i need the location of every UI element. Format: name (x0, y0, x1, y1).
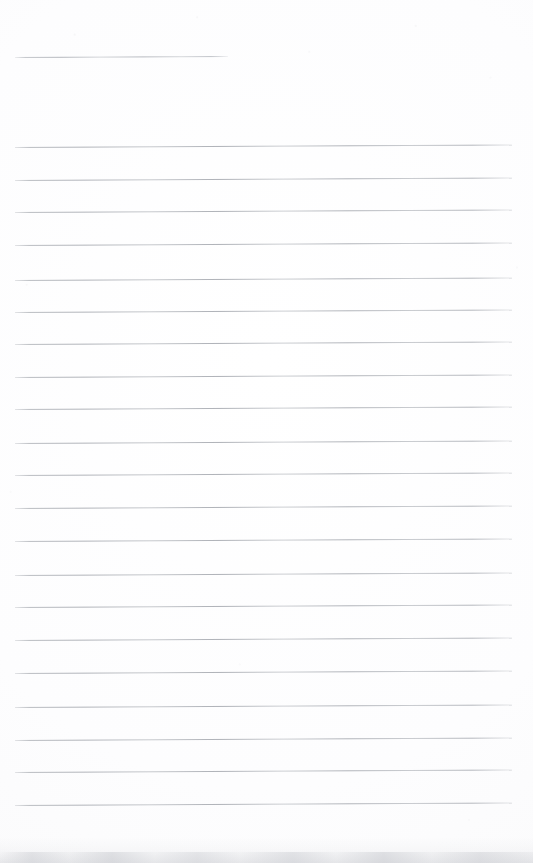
body-rule (15, 802, 512, 806)
writing-line[interactable] (15, 709, 512, 740)
writing-line[interactable] (15, 477, 512, 508)
body-rule (15, 505, 512, 509)
body-rule (15, 604, 512, 608)
writing-line[interactable] (15, 314, 512, 344)
body-rule (15, 538, 512, 542)
body-rule (15, 144, 512, 148)
writing-line[interactable] (15, 543, 512, 575)
body-rule (15, 737, 512, 741)
body-rule (15, 374, 512, 378)
writing-line[interactable] (15, 510, 512, 541)
body-rule (15, 440, 512, 444)
body-rule (15, 177, 512, 181)
body-rule (15, 209, 512, 213)
body-rule (15, 341, 512, 345)
writing-line[interactable] (15, 675, 512, 707)
header-writing-line[interactable] (15, 35, 228, 57)
body-rule (15, 704, 512, 708)
writing-line[interactable] (15, 445, 512, 475)
writing-line[interactable] (15, 182, 512, 212)
writing-line[interactable] (15, 642, 512, 673)
bottom-edge-shadow (0, 837, 533, 863)
body-rule (15, 472, 512, 476)
writing-line[interactable] (15, 247, 512, 280)
body-rule (15, 406, 512, 410)
body-rule (15, 277, 512, 281)
body-rule (15, 769, 512, 773)
body-rule (15, 637, 512, 641)
body-rule (15, 309, 512, 313)
writing-line[interactable] (15, 149, 512, 180)
scanned-page (0, 0, 533, 863)
writing-line[interactable] (15, 577, 512, 607)
scan-noise-overlay (0, 0, 533, 863)
writing-line[interactable] (15, 346, 512, 377)
writing-line[interactable] (15, 742, 512, 772)
writing-line[interactable] (15, 411, 512, 443)
paper-surface (0, 0, 533, 863)
writing-line[interactable] (15, 609, 512, 640)
writing-line[interactable] (15, 379, 512, 409)
body-rule (15, 242, 512, 246)
header-rule (15, 56, 228, 58)
writing-line[interactable] (15, 116, 512, 147)
body-rule (15, 572, 512, 576)
writing-line[interactable] (15, 282, 512, 312)
body-rule (15, 670, 512, 674)
writing-line[interactable] (15, 214, 512, 245)
ruled-lines-layer (0, 0, 533, 863)
writing-area[interactable] (0, 0, 533, 863)
writing-line[interactable] (15, 774, 512, 805)
